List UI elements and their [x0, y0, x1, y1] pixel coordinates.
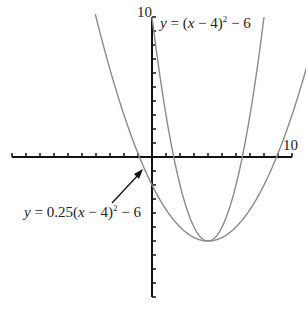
eq-part: − 4) — [85, 204, 113, 220]
graph: 10 10 y = (x − 4)2 − 6 y = 0.25(x − 4)2 … — [0, 0, 306, 314]
eq-part: = ( — [167, 15, 188, 31]
eq-part: − 6 — [227, 15, 250, 31]
var-y: y — [24, 204, 31, 220]
annotation-arrow — [112, 173, 140, 203]
eq-part: − 4) — [194, 15, 222, 31]
eq-part: = 0.25( — [31, 204, 78, 220]
wide-parabola-label: y = 0.25(x − 4)2 − 6 — [24, 203, 141, 221]
narrow-parabola-curve — [152, 17, 264, 241]
narrow-parabola-label: y = (x − 4)2 − 6 — [160, 14, 251, 32]
y-max-label: 10 — [137, 4, 152, 21]
x-max-label: 10 — [283, 137, 298, 154]
var-x: x — [78, 204, 85, 220]
eq-part: − 6 — [118, 204, 141, 220]
var-y: y — [160, 15, 167, 31]
plot-area — [0, 0, 306, 314]
